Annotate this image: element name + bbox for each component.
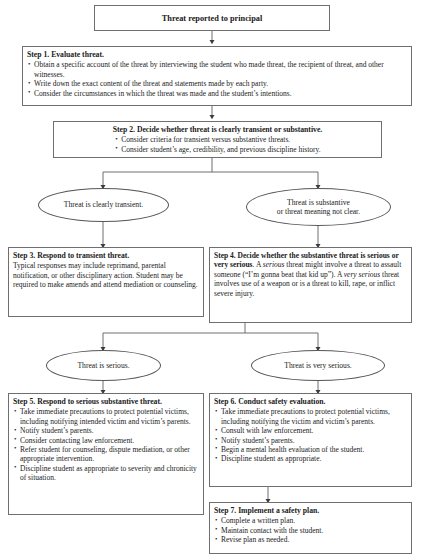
step-6-heading: Step 6. Conduct safety evaluation. [214,397,407,407]
step-7-bullets: Complete a written plan. Maintain contac… [214,516,407,544]
step-5-heading: Step 5. Respond to serious substantive t… [13,397,199,407]
node-step-4: Step 4. Decide whether the substantive t… [209,247,412,323]
decision-threat-serious: Threat is serious. [46,350,161,381]
start-label: Threat reported to principal [95,6,329,30]
decision-threat-substantive: Threat is substantive or threat meaning … [246,188,391,226]
list-item: Revise plan as needed. [214,535,407,544]
decision-threat-clearly-transient: Threat is clearly transient. [38,188,169,222]
list-item: Refer student for counseling, dispute me… [13,445,199,464]
step-1-heading: Step 1. Evaluate threat. [27,50,407,60]
node-step-6: Step 6. Conduct safety evaluation. Take … [209,393,412,487]
step-3-heading: Step 3. Respond to transient threat. [13,251,199,261]
node-step-3: Step 3. Respond to transient threat. Typ… [8,247,204,317]
step-2-body: Step 2. Decide whether threat is clearly… [54,122,381,156]
list-item: Take immediate precautions to protect po… [214,407,407,426]
step-3-body: Step 3. Respond to transient threat. Typ… [9,248,203,292]
list-item: Consider the circumstances in which the … [27,89,407,98]
node-start: Threat reported to principal [94,5,330,31]
list-item: Take immediate precautions to protect po… [13,407,199,426]
node-step-7: Step 7. Implement a safety plan. Complet… [209,502,412,554]
list-item: Consider student’s age, credibility, and… [114,145,320,154]
node-step-5: Step 5. Respond to serious substantive t… [8,393,204,515]
list-item: Discipline student as appropriate to sev… [13,464,199,483]
decision-label: Threat is substantive or threat meaning … [277,198,360,217]
list-item: Maintain contact with the student. [214,526,407,535]
step-4-text: Step 4. Decide whether the substantive t… [214,251,401,298]
list-item: Notify student’s parents. [13,426,199,435]
step-4-body: Step 4. Decide whether the substantive t… [210,248,411,300]
step-5-body: Step 5. Respond to serious substantive t… [9,394,203,485]
decision-label: Threat is very serious. [284,361,351,370]
node-step-2: Step 2. Decide whether threat is clearly… [53,121,382,158]
step-2-heading: Step 2. Decide whether threat is clearly… [58,125,377,135]
step-2-bullets: Consider criteria for transient versus s… [114,135,320,154]
step-6-body: Step 6. Conduct safety evaluation. Take … [210,394,411,466]
step-6-bullets: Take immediate precautions to protect po… [214,407,407,464]
list-item: Consider contacting law enforcement. [13,436,199,445]
list-item: Consult with law enforcement. [214,426,407,435]
step-5-bullets: Take immediate precautions to protect po… [13,407,199,483]
step-1-bullets: Obtain a specific account of the threat … [27,60,407,98]
step-3-text: Typical responses may include reprimand,… [13,261,199,289]
list-item: Notify student’s parents. [214,436,407,445]
threat-assessment-flowchart: Threat reported to principal Step 1. Eva… [0,0,431,559]
step-7-body: Step 7. Implement a safety plan. Complet… [210,503,411,547]
list-item: Complete a written plan. [214,516,407,525]
step-7-heading: Step 7. Implement a safety plan. [214,506,407,516]
list-item: Begin a mental health evaluation of the … [214,445,407,454]
list-item: Obtain a specific account of the threat … [27,60,407,79]
step-1-body: Step 1. Evaluate threat. Obtain a specif… [23,47,411,100]
list-item: Write down the exact content of the thre… [27,79,407,88]
decision-label: Threat is serious. [77,361,129,370]
decision-threat-very-serious: Threat is very serious. [251,350,385,381]
list-item: Consider criteria for transient versus s… [114,135,320,144]
list-item: Discipline student as appropriate. [214,454,407,463]
decision-label: Threat is clearly transient. [64,200,143,209]
node-step-1: Step 1. Evaluate threat. Obtain a specif… [22,46,412,106]
